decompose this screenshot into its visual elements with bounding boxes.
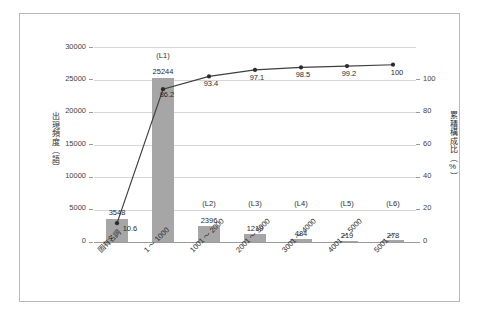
- y-tick-left-15000: 15000: [46, 140, 86, 148]
- plot-area: 10.6 86.2 93.4 97.1 98.5 99.2 100 3548 2…: [94, 47, 416, 242]
- tickmark-right-80: [416, 112, 420, 113]
- bar-label-1: 25244: [140, 68, 186, 76]
- line-label-6: 100: [377, 69, 417, 77]
- chart-container: 出現頻度（語） 累積構成比（%） 30000 25000 20000 15000…: [19, 13, 460, 302]
- axis-baseline: [94, 242, 416, 243]
- tickmark-right-40: [416, 177, 420, 178]
- line-point-2: [207, 74, 211, 78]
- y-tick-left-20000: 20000: [46, 107, 86, 115]
- tickmark-right-60: [416, 144, 420, 145]
- y-tick-right-100: 100: [423, 75, 453, 83]
- line-label-3: 97.1: [237, 74, 277, 82]
- y-tick-right-40: 40: [423, 172, 453, 180]
- y-tick-left-10000: 10000: [46, 172, 86, 180]
- tickmark-right-20: [416, 209, 420, 210]
- tickmark-left-15000: [89, 144, 93, 145]
- y-tick-left-0: 0: [46, 237, 86, 245]
- y-tick-left-25000: 25000: [46, 75, 86, 83]
- group-label-L5: (L5): [324, 200, 370, 208]
- group-label-L4: (L4): [278, 200, 324, 208]
- tickmark-left-30000: [89, 47, 93, 48]
- group-label-L1: (L1): [140, 52, 186, 60]
- line-label-4: 98.5: [283, 71, 323, 79]
- group-label-L3: (L3): [232, 200, 278, 208]
- line-point-6: [391, 63, 395, 67]
- line-label-1: 86.2: [147, 91, 187, 99]
- line-point-4: [299, 65, 303, 69]
- bar-label-2: 2396: [186, 217, 232, 225]
- line-point-3: [253, 68, 257, 72]
- tickmark-left-5000: [89, 209, 93, 210]
- line-label-2: 93.4: [191, 80, 231, 88]
- tickmark-left-20000: [89, 112, 93, 113]
- tickmark-left-10000: [89, 177, 93, 178]
- bar-label-0: 3548: [94, 209, 140, 217]
- tickmark-right-100: [416, 79, 420, 80]
- line-point-5: [345, 64, 349, 68]
- y-tick-left-30000: 30000: [46, 43, 86, 51]
- y-tick-right-20: 20: [423, 204, 453, 212]
- group-label-L6: (L6): [370, 200, 416, 208]
- line-label-5: 99.2: [329, 70, 369, 78]
- tickmark-left-25000: [89, 79, 93, 80]
- tickmark-right-0: [416, 242, 420, 243]
- y-tick-left-5000: 5000: [46, 204, 86, 212]
- tickmark-left-0: [89, 242, 93, 243]
- y-tick-right-0: 0: [423, 237, 453, 245]
- group-label-L2: (L2): [186, 200, 232, 208]
- y-tick-right-80: 80: [423, 107, 453, 115]
- y-tick-right-60: 60: [423, 140, 453, 148]
